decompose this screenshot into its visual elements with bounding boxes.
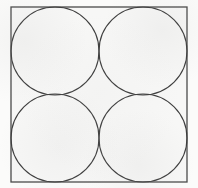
figure-container — [0, 0, 198, 188]
bounding-square — [11, 7, 187, 182]
geometry-diagram — [0, 0, 198, 188]
